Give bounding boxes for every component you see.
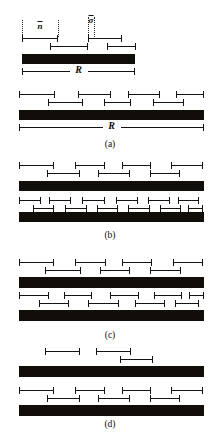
segment-tick-left <box>19 387 20 394</box>
segment-tick-left <box>122 387 123 394</box>
solid-region-block <box>19 405 204 416</box>
group-d-medium <box>0 0 220 447</box>
segment-tick-right <box>53 387 54 394</box>
interval-segment <box>171 387 203 394</box>
segment-bar <box>19 390 54 391</box>
segment-tick-left <box>171 387 172 394</box>
segment-tick-right <box>202 387 203 394</box>
interval-segment <box>122 387 151 394</box>
segment-tick-right <box>179 395 180 402</box>
segment-tick-right <box>104 387 105 394</box>
segment-tick-left <box>98 395 99 402</box>
segment-tick-left <box>150 395 151 402</box>
panel-d: (d) <box>0 0 220 447</box>
panel-caption-d: (d) <box>0 419 220 430</box>
segment-bar <box>122 390 151 391</box>
segment-bar <box>150 398 180 399</box>
figure-canvas: nσRR(a)(b)(c)(d) <box>0 0 220 447</box>
segment-tick-left <box>75 387 76 394</box>
segment-bar <box>98 398 130 399</box>
segment-bar <box>47 398 80 399</box>
interval-segment <box>150 395 180 402</box>
segment-bar <box>75 390 105 391</box>
interval-segment <box>98 395 130 402</box>
interval-segment <box>75 387 105 394</box>
segment-tick-right <box>79 395 80 402</box>
interval-segment <box>47 395 80 402</box>
segment-tick-left <box>47 395 48 402</box>
segment-bar <box>171 390 203 391</box>
interval-segment <box>19 387 54 394</box>
segment-tick-right <box>129 395 130 402</box>
segment-tick-right <box>150 387 151 394</box>
